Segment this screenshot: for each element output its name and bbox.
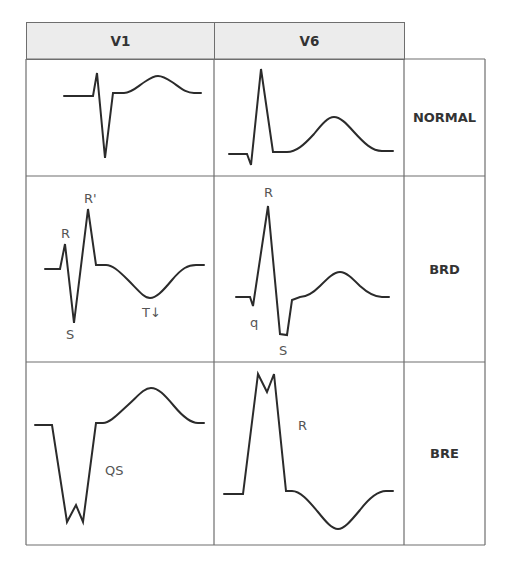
- row-label-bre: BRE: [404, 362, 485, 545]
- ecg-trace-normal-v6: [229, 69, 393, 165]
- row-label-normal: NORMAL: [404, 59, 485, 176]
- label-brd-v1-r: R: [61, 226, 70, 241]
- ecg-trace-bre-v6: [224, 374, 393, 529]
- label-brd-v6-r: R: [264, 185, 273, 200]
- row-label-normal-text: NORMAL: [413, 110, 476, 125]
- label-bre-v6-r: R: [298, 418, 307, 433]
- label-brd-v6-s: S: [279, 343, 287, 358]
- row-label-bre-text: BRE: [430, 446, 459, 461]
- ecg-trace-brd-v6: [236, 206, 389, 335]
- row-label-brd-text: BRD: [429, 262, 460, 277]
- ecg-trace-normal-v1: [64, 73, 201, 158]
- label-brd-v1-r-prime: R': [84, 191, 97, 206]
- label-brd-v1-s: S: [66, 327, 74, 342]
- label-bre-v1-qs: QS: [105, 463, 123, 478]
- label-brd-v6-q: q: [250, 315, 258, 330]
- label-brd-v1-t-inverted: T↓: [141, 305, 161, 320]
- row-label-brd: BRD: [404, 176, 485, 362]
- ecg-trace-bre-v1: [35, 388, 204, 522]
